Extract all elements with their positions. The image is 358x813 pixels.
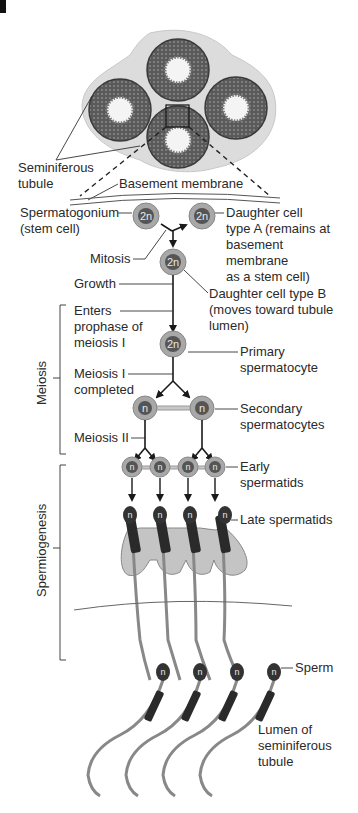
label-seminiferous-tubule-line2: tubule <box>18 176 53 191</box>
svg-text:n: n <box>212 462 217 472</box>
cells-secondary-spermatocytes: n n <box>133 396 214 420</box>
label-spermiogenesis-phase: Spermiogenesis <box>34 503 49 597</box>
label-daughter-b-line2: (moves toward tubule <box>209 302 333 317</box>
label-meiosis-i-completed-line2: completed <box>74 382 134 397</box>
label-early-spermatids-line1: Early <box>240 459 270 474</box>
svg-text:n: n <box>127 510 132 520</box>
tubule-top <box>147 39 209 101</box>
label-early-spermatids-line2: spermatids <box>240 475 304 490</box>
label-enters-prophase-line2: prophase of <box>74 319 143 334</box>
bracket-spermiogenesis <box>53 465 66 660</box>
cell-primary-spermatocyte: 2n <box>160 331 186 357</box>
tubule-left <box>89 79 151 141</box>
svg-text:n: n <box>222 510 227 520</box>
label-primary-spermatocyte-line2: spermatocyte <box>240 360 318 375</box>
spermatogenesis-diagram: Seminiferous tubule Basement membrane 2n… <box>0 0 358 813</box>
label-meiosis-i-completed-line1: Meiosis I <box>74 366 125 381</box>
bracket-meiosis <box>53 305 66 454</box>
svg-text:n: n <box>142 402 148 414</box>
svg-text:n: n <box>271 667 276 677</box>
label-primary-spermatocyte-line1: Primary <box>240 344 285 359</box>
label-daughter-a-line4: membrane <box>226 253 288 268</box>
label-secondary-spermatocytes-line2: spermatocytes <box>240 417 325 432</box>
label-daughter-a-line2: type A (remains at <box>226 221 330 236</box>
label-spermatogonium-line2: (stem cell) <box>20 221 80 236</box>
svg-text:n: n <box>160 667 165 677</box>
cell-daughter-a: 2n <box>189 203 215 229</box>
label-growth: Growth <box>74 276 116 291</box>
label-meiosis-phase: Meiosis <box>34 360 49 405</box>
svg-text:2n: 2n <box>140 210 152 222</box>
cells-early-spermatids: n n n n <box>122 457 225 477</box>
label-lumen-line3: tubule <box>258 754 293 769</box>
label-lumen-line2: seminiferous <box>258 738 332 753</box>
label-meiosis-ii: Meiosis II <box>74 430 129 445</box>
svg-text:2n: 2n <box>196 210 208 222</box>
svg-text:n: n <box>197 667 202 677</box>
svg-text:n: n <box>234 667 239 677</box>
label-daughter-b-line3: lumen) <box>209 318 249 333</box>
svg-text:n: n <box>157 510 162 520</box>
svg-text:n: n <box>157 462 162 472</box>
label-secondary-spermatocytes-line1: Secondary <box>240 401 303 416</box>
cells-sperm: n n n n <box>88 663 281 796</box>
cell-spermatogonium: 2n <box>133 203 159 229</box>
label-lumen-line1: Lumen of <box>258 722 313 737</box>
tubule-bottom <box>147 106 209 168</box>
label-daughter-a-line3: basement <box>226 237 283 252</box>
svg-text:n: n <box>199 402 205 414</box>
label-late-spermatids: Late spermatids <box>240 512 333 527</box>
cells-late-spermatids: n n n n <box>121 506 247 680</box>
label-daughter-a-line1: Daughter cell <box>226 205 303 220</box>
label-seminiferous-tubule-line1: Seminiferous <box>18 160 94 175</box>
svg-text:n: n <box>129 462 134 472</box>
label-spermatogonium-line1: Spermatogonium <box>20 205 119 220</box>
label-daughter-b-line1: Daughter cell type B <box>209 286 326 301</box>
label-enters-prophase-line1: Enters <box>74 303 112 318</box>
svg-text:n: n <box>187 510 192 520</box>
svg-text:2n: 2n <box>167 338 179 350</box>
label-sperm: Sperm <box>295 660 333 675</box>
label-mitosis: Mitosis <box>90 251 131 266</box>
cell-daughter-b: 2n <box>160 249 186 275</box>
svg-text:2n: 2n <box>167 256 179 268</box>
tubule-right <box>205 77 267 139</box>
label-enters-prophase-line3: meiosis I <box>74 335 125 350</box>
label-basement-membrane: Basement membrane <box>119 176 243 191</box>
label-daughter-a-line5: as a stem cell) <box>226 269 310 284</box>
svg-text:n: n <box>185 462 190 472</box>
